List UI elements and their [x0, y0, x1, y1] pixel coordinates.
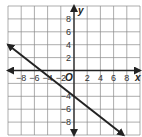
origin-label: O: [65, 72, 73, 83]
x-tick-label: 4: [98, 73, 103, 83]
axes: [8, 6, 140, 135]
x-tick-label: 2: [85, 73, 90, 83]
y-tick-label: 8: [66, 14, 71, 24]
coordinate-plane: −8−6−4−224688642−4−6−8 x y O: [0, 0, 142, 137]
y-tick-label: −8: [61, 117, 71, 127]
x-tick-label: 6: [111, 73, 116, 83]
x-tick-label: −8: [16, 73, 26, 83]
y-axis-label: y: [77, 5, 84, 16]
y-tick-label: −6: [61, 104, 71, 114]
y-tick-label: 6: [66, 27, 71, 37]
y-tick-label: 4: [66, 40, 71, 50]
x-tick-label: −6: [29, 73, 39, 83]
y-tick-label: 2: [66, 53, 71, 63]
x-axis-label: x: [134, 72, 141, 83]
x-tick-label: 8: [124, 73, 129, 83]
